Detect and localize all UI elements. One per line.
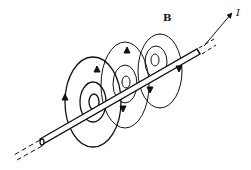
arrow-down-icon [176, 66, 182, 72]
current-label-i: I [235, 7, 241, 18]
wire-dashed-extension-left [14, 140, 42, 160]
field-label-b: B [163, 12, 171, 23]
arrow-up-icon [62, 94, 68, 100]
arrow-up-icon [124, 47, 130, 53]
magnetic-field-diagram: B I [0, 0, 251, 170]
arrow-up-icon [94, 66, 100, 72]
arrow-down-icon [147, 87, 153, 93]
current-arrow [204, 14, 231, 46]
